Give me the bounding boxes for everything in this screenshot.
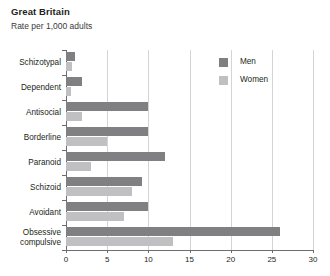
bar-women	[66, 237, 173, 246]
legend-swatch-icon	[219, 76, 228, 85]
bar-men	[66, 77, 82, 86]
x-tick-label: 25	[259, 255, 285, 264]
bar-chart: Great Britain Rate per 1,000 adults Schi…	[0, 0, 330, 276]
bar-group	[66, 50, 313, 75]
bar-men	[66, 127, 148, 136]
bar-group	[66, 225, 313, 250]
legend-label: Men	[240, 57, 256, 66]
bar-men	[66, 177, 142, 186]
bar-women	[66, 112, 82, 121]
y-axis-label-schizotypal: Schizotypal	[0, 58, 61, 68]
bar-women	[66, 162, 91, 171]
chart-subtitle: Rate per 1,000 adults	[11, 21, 92, 31]
bar-women	[66, 137, 107, 146]
bar-women	[66, 87, 71, 96]
bar-women	[66, 212, 124, 221]
legend-swatch-icon	[219, 58, 228, 67]
x-tick-5	[107, 250, 108, 253]
chart-title: Great Britain	[11, 6, 70, 17]
bar-women	[66, 187, 132, 196]
bar-men	[66, 102, 148, 111]
bar-group	[66, 75, 313, 100]
bar-group	[66, 150, 313, 175]
bar-group	[66, 125, 313, 150]
x-tick-20	[231, 250, 232, 253]
bar-men	[66, 52, 75, 61]
bar-group	[66, 100, 313, 125]
x-tick-label: 30	[300, 255, 326, 264]
gridline-30	[313, 50, 314, 250]
x-tick-30	[313, 250, 314, 253]
legend-label: Women	[240, 75, 268, 84]
x-tick-label: 0	[53, 255, 79, 264]
bar-group	[66, 175, 313, 200]
x-tick-0	[66, 250, 67, 253]
bar-men	[66, 202, 148, 211]
y-axis-label-schizoid: Schizoid	[0, 183, 61, 193]
bar-men	[66, 152, 165, 161]
bar-group	[66, 200, 313, 225]
bar-women	[66, 62, 72, 71]
plot-area	[66, 50, 313, 250]
x-tick-15	[190, 250, 191, 253]
y-axis-label-antisocial: Antisocial	[0, 108, 61, 118]
x-tick-label: 20	[218, 255, 244, 264]
y-axis-label-avoidant: Avoidant	[0, 208, 61, 218]
y-axis-label-borderline: Borderline	[0, 133, 61, 143]
x-tick-label: 5	[94, 255, 120, 264]
x-tick-label: 15	[177, 255, 203, 264]
x-tick-25	[272, 250, 273, 253]
y-axis-label-dependent: Dependent	[0, 83, 61, 93]
x-tick-label: 10	[135, 255, 161, 264]
x-tick-10	[148, 250, 149, 253]
y-axis-label-obsessive-compulsive: Obsessivecompulsive	[0, 228, 61, 247]
y-axis-label-paranoid: Paranoid	[0, 158, 61, 168]
bar-men	[66, 227, 280, 236]
